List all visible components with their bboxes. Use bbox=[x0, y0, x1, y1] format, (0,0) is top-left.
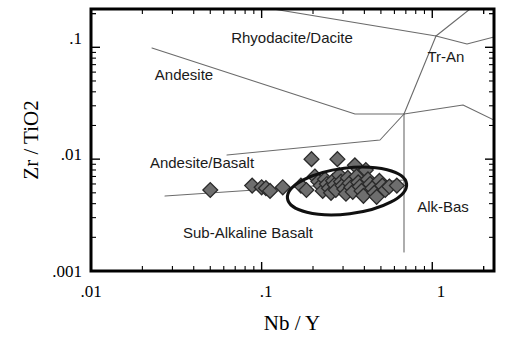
classification-diagram: .1 .01 .001 .01 .1 1 Zr / TiO2 Nb / Y Rh… bbox=[0, 0, 507, 359]
x-axis-title: Nb / Y bbox=[264, 311, 320, 335]
figure-container: .1 .01 .001 .01 .1 1 Zr / TiO2 Nb / Y Rh… bbox=[0, 0, 507, 359]
field-label-alk-bas: Alk-Bas bbox=[417, 198, 469, 215]
field-label-andesite: Andesite bbox=[155, 66, 213, 83]
field-label-sub-alkaline-basalt: Sub-Alkaline Basalt bbox=[183, 224, 314, 241]
field-label-andesite-basalt: Andesite/Basalt bbox=[150, 154, 255, 171]
y-axis-title: Zr / TiO2 bbox=[19, 100, 43, 179]
y-tick-label-2: .001 bbox=[52, 262, 82, 281]
x-tick-label-0: .01 bbox=[80, 282, 101, 301]
y-tick-label-0: .1 bbox=[69, 29, 82, 48]
x-tick-label-1: .1 bbox=[260, 282, 273, 301]
field-label-rhyodacite-dacite: Rhyodacite/Dacite bbox=[231, 29, 353, 46]
y-tick-label-1: .01 bbox=[61, 145, 82, 164]
x-tick-label-2: 1 bbox=[437, 282, 446, 301]
field-label-tr-an: Tr-An bbox=[428, 48, 465, 65]
